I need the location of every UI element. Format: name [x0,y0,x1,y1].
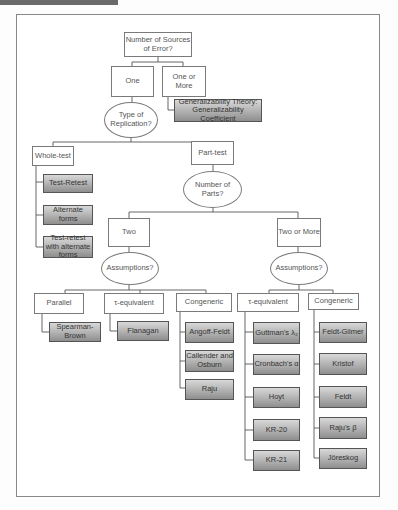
node-type-of-replication: Type of Replication? [104,102,158,138]
method-kristof: Kristof [319,353,367,375]
node-one: One [111,66,154,97]
method-kr21: KR-21 [253,450,300,471]
method-flanagan: Flanagan [117,321,169,341]
method-angoff-feldt: Angoff-Feldt [185,322,234,343]
node-part-test: Part-test [191,141,234,165]
node-one-or-more: One or More [162,66,206,97]
method-kr20: KR-20 [253,419,300,441]
category-tau-equivalent-more: τ-equivalent [237,293,299,312]
method-feldt: Feldt [319,386,367,408]
method-alternate-forms: Alternate forms [43,205,93,225]
node-generalizability-theory: Generalizability Theory: Generalizabilit… [174,99,262,122]
method-test-retest-alternate-forms: Test-retest with alternate forms [43,236,93,258]
node-assumptions-two-or-more: Assumptions? [270,252,328,285]
node-two: Two [108,218,150,247]
method-cronbach-alpha: Cronbach's α [253,354,300,375]
category-tau-equivalent-two: τ-equivalent [104,293,164,314]
node-two-or-more: Two or More [277,218,321,247]
method-guttman-lambda2: Guttman's λ₂ [253,322,300,344]
node-assumptions-two: Assumptions? [101,252,159,285]
category-congeneric-more: Congeneric [308,293,359,310]
node-sources-of-error: Number of Sources of Error? [124,32,192,57]
category-parallel: Parallel [34,293,84,314]
category-congeneric-two: Congeneric [176,293,232,312]
method-spearman-brown: Spearman-Brown [49,322,101,342]
method-feldt-gilmer: Feldt-Gilmer [319,322,367,343]
node-whole-test: Whole-test [32,146,74,166]
method-callender-osburn: Callender and Osburn [185,350,234,372]
node-number-of-parts: Number of Parts? [183,171,242,208]
method-hoyt: Hoyt [253,387,300,408]
method-test-retest: Test-Retest [43,174,93,193]
method-raju: Raju [185,379,234,400]
method-joreskog: Jöreskog [319,448,367,469]
method-raju-beta: Raju's β [319,417,367,439]
